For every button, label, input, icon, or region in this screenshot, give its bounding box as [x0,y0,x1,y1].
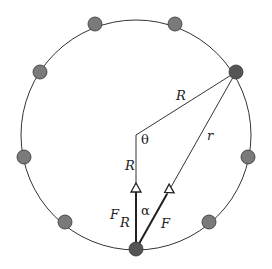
particle [58,215,72,229]
force-F-arrowhead-icon [162,184,174,197]
label-R-top: R [175,88,186,103]
label-R-vertical: R [124,158,135,173]
force-FR-arrowhead-icon [131,183,141,192]
label-r: r [207,128,214,143]
radius-line-R [136,72,236,135]
particle [88,17,102,31]
label-F-R: F [109,207,120,222]
label-alpha: α [141,203,150,218]
particle [33,65,47,79]
particle [17,150,31,164]
label-F-R-subscript: R [119,215,130,230]
particle [229,65,243,79]
label-F: F [160,216,171,231]
diagram: R r θ R F R α F [0,0,272,269]
diagram-svg: R r θ R F R α F [0,0,272,269]
particle [241,150,255,164]
label-theta: θ [141,132,149,147]
particle [129,242,143,256]
particle [202,215,216,229]
particle [168,17,182,31]
